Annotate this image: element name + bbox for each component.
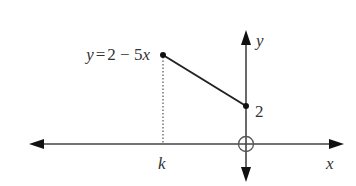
graph-diagram: y=2 − 5x y 2 k x [0,0,356,186]
x-axis [29,139,344,149]
x-axis-left-arrow-icon [29,139,44,149]
x-axis-right-arrow-icon [329,139,344,149]
x-axis-label: x [325,154,334,173]
y-intercept-label: 2 [255,102,264,121]
y-axis-up-arrow-icon [241,30,251,45]
equation-label: y=2 − 5x [84,45,150,64]
y-intercept-dot [243,103,249,109]
function-segment [163,55,246,106]
k-label: k [158,154,166,173]
y-axis-down-arrow-icon [241,167,251,182]
y-axis-label: y [254,31,264,50]
left-endpoint-dot [160,52,166,58]
